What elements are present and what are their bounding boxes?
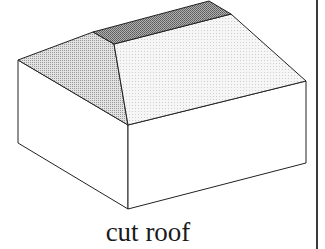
page-rule — [316, 0, 318, 249]
cut-roof-house-diagram — [0, 0, 325, 249]
figure-caption: cut roof — [0, 219, 296, 246]
